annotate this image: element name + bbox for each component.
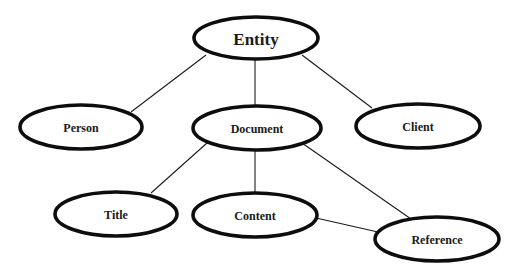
node-entity: Entity <box>194 17 318 59</box>
person-label: Person <box>63 121 99 135</box>
edge-document-title <box>151 143 207 193</box>
node-reference: Reference <box>375 217 499 261</box>
node-client: Client <box>356 104 480 148</box>
edge-document-reference <box>302 143 411 219</box>
reference-label: Reference <box>411 233 463 247</box>
edge-entity-client <box>302 55 372 108</box>
node-title: Title <box>55 192 177 236</box>
entity-diagram: EntityPersonDocumentClientTitleContentRe… <box>0 0 514 276</box>
node-document: Document <box>193 106 321 150</box>
node-person: Person <box>20 105 142 149</box>
nodes-group: EntityPersonDocumentClientTitleContentRe… <box>20 17 499 261</box>
client-label: Client <box>402 120 433 134</box>
title-label: Title <box>104 208 128 222</box>
node-content: Content <box>193 193 317 237</box>
entity-label: Entity <box>233 30 279 49</box>
content-label: Content <box>234 209 275 223</box>
document-label: Document <box>231 122 284 136</box>
edge-entity-person <box>131 55 206 112</box>
edge-content-reference <box>316 218 378 232</box>
